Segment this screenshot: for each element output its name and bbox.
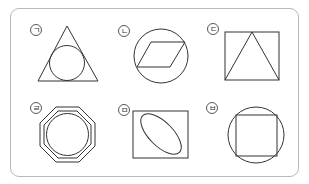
panel-d: ㄹ	[31, 103, 96, 163]
square-shape	[225, 32, 279, 80]
panel-label: ㄴ	[121, 27, 128, 36]
panel-e: ㅁ	[119, 105, 189, 161]
ellipse-shape	[134, 107, 188, 161]
triangle-shape	[38, 26, 98, 81]
panel-label: ㄱ	[33, 26, 40, 35]
circle-shape	[47, 114, 89, 156]
panel-c: ㄷ	[208, 24, 280, 81]
inner-octagon-shape	[44, 111, 91, 158]
circle-shape	[134, 29, 188, 83]
outer-octagon-shape	[40, 107, 95, 162]
panel-a: ㄱ	[31, 25, 99, 82]
panel-f: ㅂ	[207, 103, 285, 164]
panel-label: ㅁ	[121, 106, 128, 115]
panel-b: ㄴ	[119, 26, 189, 84]
panel-label: ㄹ	[33, 104, 40, 113]
circle-shape	[50, 46, 85, 81]
shapes-figure: ㄱ ㄴ ㄷ ㄹ ㅁ ㅂ	[0, 0, 309, 184]
panel-label: ㄷ	[210, 25, 217, 34]
parallelogram-shape	[137, 42, 185, 67]
panel-label: ㅂ	[209, 104, 216, 113]
square-shape	[236, 115, 277, 156]
triangle-shape	[225, 32, 279, 80]
